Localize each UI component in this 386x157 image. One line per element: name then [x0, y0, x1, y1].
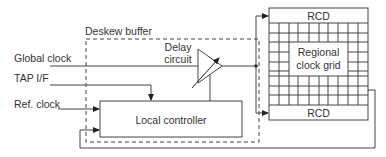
ref-clock-label: Ref. clock [14, 98, 60, 110]
regional-grid-label-2: clock grid [289, 59, 348, 71]
delay-circuit-label-1: Delay [158, 41, 198, 53]
top-rcd-feed-wire [256, 16, 268, 66]
top-rcd-label: RCD [269, 10, 368, 22]
tap-if-wire [50, 85, 151, 100]
global-clock-label: Global clock [14, 52, 71, 64]
local-controller-label: Local controller [100, 114, 242, 126]
tap-if-label: TAP I/F [14, 72, 49, 84]
regional-grid-label-1: Regional [289, 46, 348, 58]
bottom-rcd-label: RCD [269, 107, 368, 119]
deskew-buffer-diagram [0, 0, 386, 157]
bottom-rcd-feed-wire [256, 66, 268, 113]
deskew-buffer-label: Deskew buffer [85, 25, 152, 37]
delay-circuit-label-2: circuit [158, 53, 198, 65]
